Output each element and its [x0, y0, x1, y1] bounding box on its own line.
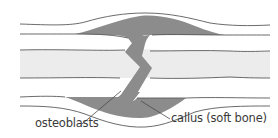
label-osteoblasts: osteoblasts	[35, 118, 98, 130]
label-callus: callus (soft bone)	[171, 113, 267, 125]
callus-bottom	[65, 92, 186, 118]
periosteum-bottom-inner	[20, 96, 270, 98]
callus-top	[75, 16, 225, 44]
